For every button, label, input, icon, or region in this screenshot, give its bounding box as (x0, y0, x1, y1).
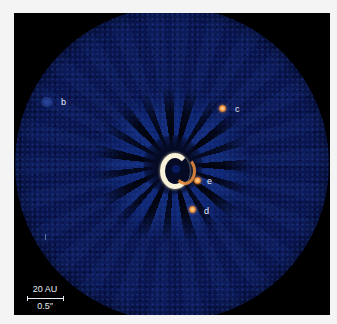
image-frame: b c e d 20 AU 0.5″ (14, 13, 330, 315)
planet-d (189, 206, 196, 213)
planet-c-label: c (235, 104, 240, 114)
planet-b-label: b (61, 97, 66, 107)
scale-angle-label: 0.5″ (25, 301, 65, 311)
noise-artifact (45, 234, 46, 240)
planet-e (194, 177, 201, 184)
planet-e-label: e (207, 176, 212, 186)
scale-bar (27, 298, 64, 299)
planet-d-label: d (204, 206, 209, 216)
planet-c (219, 105, 226, 112)
scale-distance-label: 20 AU (25, 284, 65, 294)
planet-b (41, 97, 53, 107)
central-star-core (172, 165, 180, 173)
